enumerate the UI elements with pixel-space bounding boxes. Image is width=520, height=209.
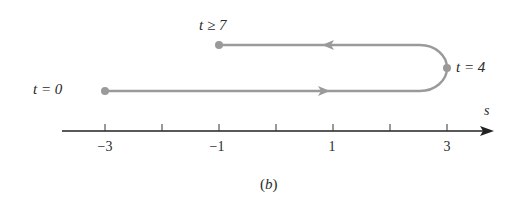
tick-label-1: 1 (329, 139, 336, 155)
start-label: t = 0 (33, 81, 62, 98)
caption-text: (b) (260, 176, 278, 192)
axis-variable-label: s (484, 103, 489, 119)
turn-point-dot (443, 64, 451, 72)
tick-label-neg1: −1 (210, 139, 225, 155)
end-point-dot (215, 41, 223, 49)
s-axis (62, 124, 494, 136)
end-label: t ≥ 7 (199, 17, 226, 34)
motion-diagram: t = 0 t ≥ 7 t = 4 s −3 −1 1 3 (b) (0, 0, 520, 209)
figure-caption: (b) (260, 176, 278, 193)
start-point-dot (101, 87, 109, 95)
tick-label-3: 3 (444, 139, 451, 155)
turn-label: t = 4 (456, 59, 485, 76)
tick-label-neg3: −3 (98, 139, 113, 155)
particle-path (105, 45, 447, 91)
